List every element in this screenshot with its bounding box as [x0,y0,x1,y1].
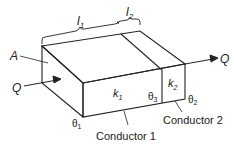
arrow-q-out-shaft [185,59,213,64]
dimension-braces [42,17,140,44]
label-k2: k2 [168,77,178,91]
label-area: A [9,49,18,63]
arrow-q-out-head [210,55,218,62]
label-conductor1: Conductor 1 [96,130,156,142]
arrow-q-in-shaft [24,80,57,86]
label-q-out: Q [220,52,229,66]
label-conductor2: Conductor 2 [163,114,223,126]
label-theta1: θ1 [72,118,82,130]
label-k1: k1 [113,87,123,101]
label-l2: l2 [126,5,134,21]
front-face [83,64,185,117]
label-l1: l1 [77,14,84,30]
label-theta2: θ2 [188,94,198,106]
arrow-q-in-head [53,76,61,83]
leader-area [20,56,48,63]
heat-flow-arrows [24,55,218,86]
block-outline [42,31,185,117]
label-theta3: θ3 [148,91,158,103]
leader-conductor2 [175,101,182,112]
divider-top [121,34,162,70]
top-face [42,31,185,83]
leader-conductor1 [124,111,128,125]
conductor-diagram: l1 l2 A Q Q k1 k2 θ3 θ2 θ1 Conductor 1 C… [0,0,234,153]
label-q-in: Q [12,81,21,95]
